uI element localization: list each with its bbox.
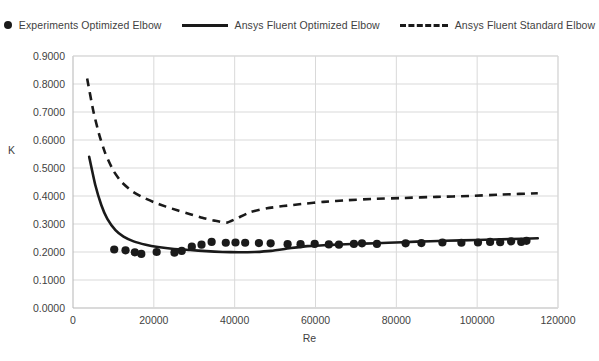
x-tick-label: 0 xyxy=(70,314,76,326)
data-point-marker xyxy=(231,238,239,246)
data-point-marker xyxy=(197,241,205,249)
y-tick-label: 0.5000 xyxy=(33,162,65,174)
y-tick-label: 0.9000 xyxy=(33,50,65,62)
x-axis-title: Re xyxy=(0,332,599,344)
y-tick-label: 0.8000 xyxy=(33,78,65,90)
y-tick-label: 0.4000 xyxy=(33,190,65,202)
y-axis-title: K xyxy=(8,144,15,156)
data-point-marker xyxy=(110,245,118,253)
x-tick-label: 40000 xyxy=(220,314,249,326)
legend-label: Experiments Optimized Elbow xyxy=(19,19,162,31)
y-tick-label: 0.0000 xyxy=(33,302,65,314)
series-line-solid xyxy=(89,157,538,252)
chart-figure: Experiments Optimized Elbow Ansys Fluent… xyxy=(0,0,599,361)
solid-line-icon xyxy=(182,24,228,27)
data-point-marker xyxy=(241,239,249,247)
data-point-marker xyxy=(222,239,230,247)
x-tick-label: 100000 xyxy=(460,314,495,326)
plot-area: 0.00000.10000.20000.30000.40000.50000.60… xyxy=(0,0,599,330)
legend-label: Ansys Fluent Standard Elbow xyxy=(455,19,595,31)
data-point-marker xyxy=(267,239,275,247)
legend-item-fluent-optimized: Ansys Fluent Optimized Elbow xyxy=(182,19,380,31)
x-tick-label: 80000 xyxy=(382,314,411,326)
data-point-marker xyxy=(137,250,145,258)
gridlines xyxy=(73,56,558,308)
legend-item-experiments: Experiments Optimized Elbow xyxy=(4,19,162,31)
y-tick-label: 0.1000 xyxy=(33,274,65,286)
x-tick-label: 60000 xyxy=(301,314,330,326)
data-point-marker xyxy=(208,238,216,246)
y-tick-label: 0.2000 xyxy=(33,246,65,258)
y-tick-label: 0.3000 xyxy=(33,218,65,230)
dot-marker-icon xyxy=(4,21,12,29)
x-tick-labels: 020000400006000080000100000120000 xyxy=(70,314,576,326)
y-tick-label: 0.6000 xyxy=(33,134,65,146)
data-point-marker xyxy=(255,239,263,247)
series-line-dashed xyxy=(87,78,538,222)
y-tick-label: 0.7000 xyxy=(33,106,65,118)
x-tick-label: 120000 xyxy=(540,314,575,326)
data-point-marker xyxy=(153,248,161,256)
y-tick-labels: 0.00000.10000.20000.30000.40000.50000.60… xyxy=(33,50,65,314)
legend-item-fluent-standard: Ansys Fluent Standard Elbow xyxy=(400,19,595,31)
data-point-marker xyxy=(121,246,129,254)
legend-label: Ansys Fluent Optimized Elbow xyxy=(235,19,380,31)
chart-legend: Experiments Optimized Elbow Ansys Fluent… xyxy=(0,14,599,36)
x-axis-title-text: Re xyxy=(283,332,316,344)
dashed-line-icon xyxy=(400,24,448,27)
x-tick-label: 20000 xyxy=(139,314,168,326)
